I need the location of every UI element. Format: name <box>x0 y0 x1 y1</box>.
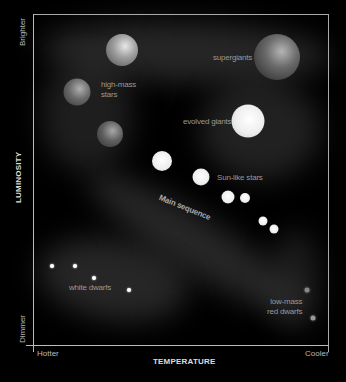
red-dwarf-star-2 <box>311 316 316 321</box>
x-axis-left-label: Hotter <box>37 349 59 358</box>
x-axis-title: TEMPERATURE <box>153 357 216 366</box>
main-sequence-star-1 <box>152 151 172 171</box>
main-sequence-star-5 <box>259 217 268 226</box>
red-dwarfs-label: low-mass red dwarfs <box>267 297 302 317</box>
white-dwarf-star-4 <box>127 288 131 292</box>
main-sequence-star-4 <box>240 193 250 203</box>
y-axis-title: LUMINOSITY <box>14 152 23 203</box>
y-axis-bottom-label: Dimmer <box>18 315 27 343</box>
y-axis-top-label: Brighter <box>18 18 27 46</box>
red-dwarfs-label-line1: low-mass <box>267 297 302 307</box>
high-mass-glow <box>42 60 132 170</box>
x-axis-line <box>26 345 329 346</box>
supergiants-label: supergiants <box>213 53 252 63</box>
white-dwarf-star-1 <box>50 264 54 268</box>
main-sequence-star-6 <box>270 225 279 234</box>
hr-diagram: high-mass stars supergiants evolved gian… <box>0 0 346 382</box>
high-mass-star-2 <box>64 79 91 106</box>
red-dwarfs-label-line2: red dwarfs <box>267 307 302 317</box>
frame-right <box>328 14 329 352</box>
x-axis-right-label: Cooler <box>305 349 329 358</box>
high-mass-label-line2: stars <box>101 90 136 100</box>
supergiant-star <box>254 34 300 80</box>
evolved-giant-star <box>232 105 265 138</box>
sun-like-star <box>193 169 210 186</box>
evolved-giants-text: evolved giants <box>183 117 231 126</box>
high-mass-label: high-mass stars <box>101 80 136 100</box>
high-mass-star-1 <box>106 34 138 66</box>
high-mass-label-line1: high-mass <box>101 80 136 90</box>
red-dwarf-star-1 <box>305 288 310 293</box>
white-dwarf-star-2 <box>73 264 77 268</box>
white-dwarfs-label: white dwarfs <box>69 283 111 293</box>
sun-like-text: Sun-like stars <box>217 173 263 182</box>
white-dwarf-star-3 <box>92 276 96 280</box>
white-dwarfs-text: white dwarfs <box>69 283 111 292</box>
high-mass-star-3 <box>97 121 123 147</box>
main-sequence-star-3 <box>222 191 235 204</box>
evolved-giants-label: evolved giants <box>183 117 231 127</box>
supergiants-text: supergiants <box>213 53 252 62</box>
frame-top <box>33 14 329 15</box>
sun-like-label: Sun-like stars <box>217 173 263 183</box>
y-axis-line <box>33 14 34 352</box>
